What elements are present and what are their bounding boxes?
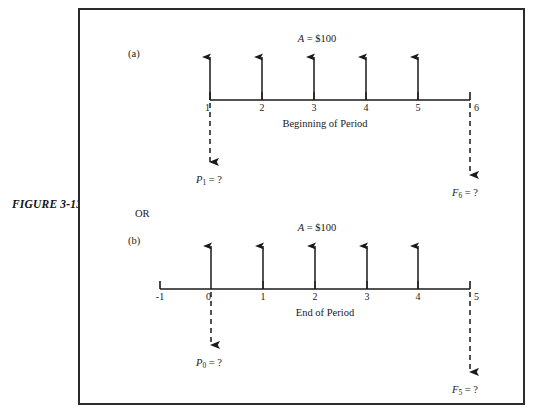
part-b-tag: (b)	[128, 235, 140, 246]
part-b-tick-label-2: 2	[308, 291, 322, 302]
part-b-tick-label-minus1: -1	[152, 291, 168, 302]
part-b-amount-eq: =	[304, 222, 315, 233]
part-a-tick-label-5: 5	[411, 102, 425, 113]
part-a-future-subscript: 6	[458, 191, 462, 200]
part-a-future-tail: = ?	[462, 187, 478, 198]
part-b-future-tail: = ?	[462, 384, 478, 395]
part-b-tick-label-0: 0	[197, 291, 211, 302]
part-b-present-subscript: 0	[202, 361, 206, 370]
part-b-future-subscript: 5	[458, 388, 462, 397]
part-a-group	[210, 57, 470, 175]
part-a-tick-label-3: 3	[307, 102, 321, 113]
part-b-present-tail: = ?	[206, 357, 222, 368]
part-b-present-worth-label: P0 = ?	[196, 357, 222, 368]
cash-flow-diagram-canvas	[0, 0, 546, 419]
part-a-amount-label: A = $100	[262, 33, 372, 44]
part-a-future-worth-label: F6 = ?	[452, 187, 478, 198]
part-a-present-worth-label: P1 = ?	[196, 174, 222, 185]
part-a-tick-label-2: 2	[255, 102, 269, 113]
part-a-amount-value: $100	[315, 33, 336, 44]
figure-page: FIGURE 3-13	[0, 0, 546, 419]
part-a-tick-label-6: 6	[474, 102, 488, 113]
part-a-axis-caption: Beginning of Period	[245, 118, 405, 129]
part-a-tag: (a)	[128, 48, 140, 59]
part-a-tick-label-1: 1	[196, 102, 210, 113]
or-connector-label: OR	[135, 208, 150, 219]
part-b-amount-value: $100	[315, 222, 336, 233]
part-a-present-subscript: 1	[202, 178, 206, 187]
part-b-future-worth-label: F5 = ?	[452, 384, 478, 395]
part-b-tick-label-4: 4	[411, 291, 425, 302]
part-b-tick-label-5: 5	[474, 291, 488, 302]
part-b-tick-label-3: 3	[360, 291, 374, 302]
part-a-present-tail: = ?	[206, 174, 222, 185]
part-a-amount-eq: =	[304, 33, 315, 44]
part-b-amount-label: A = $100	[262, 222, 372, 233]
part-a-tick-label-4: 4	[359, 102, 373, 113]
part-b-tick-label-1: 1	[256, 291, 270, 302]
part-b-axis-caption: End of Period	[255, 307, 395, 318]
